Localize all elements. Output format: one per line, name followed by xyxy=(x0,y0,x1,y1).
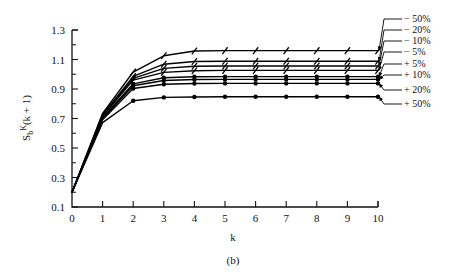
data-point-marker xyxy=(192,95,196,99)
legend-label-8: + 50% xyxy=(404,98,430,109)
x-tick-label: 0 xyxy=(69,212,75,224)
data-point-marker xyxy=(162,95,166,99)
x-tick-label: 5 xyxy=(222,212,228,224)
data-point-marker xyxy=(162,82,166,86)
data-point-marker xyxy=(345,77,349,81)
x-tick-label: 3 xyxy=(161,212,167,224)
x-axis-title: k xyxy=(230,231,236,243)
data-point-marker xyxy=(345,95,349,99)
data-point-marker xyxy=(284,81,288,85)
data-point-marker xyxy=(223,81,227,85)
data-point-marker xyxy=(253,95,257,99)
x-tick-label: 10 xyxy=(373,212,385,224)
legend-leader-line xyxy=(379,97,402,104)
data-point-marker xyxy=(315,81,319,85)
x-axis-ticks xyxy=(103,201,378,207)
axis-lines xyxy=(72,30,378,207)
y-axis-title: SbK(k + 1) xyxy=(19,95,35,141)
data-point-marker xyxy=(284,95,288,99)
series-line xyxy=(72,51,378,193)
x-tick-label: 9 xyxy=(345,212,351,224)
series-line xyxy=(72,83,378,192)
legend-leader-line xyxy=(379,41,402,66)
legend-label-3: − 10% xyxy=(404,35,430,46)
x-tick-label: 8 xyxy=(314,212,320,224)
data-point-marker xyxy=(315,95,319,99)
legend-leader-line xyxy=(379,19,402,51)
legend-label-5: + 5% xyxy=(404,58,425,69)
data-point-marker xyxy=(284,77,288,81)
figure-panel: 012345678910 0.10.30.50.70.91.11.3 − 50%… xyxy=(0,0,466,276)
y-tick-label: 0.3 xyxy=(51,172,65,184)
legend-label-1: − 50% xyxy=(404,13,430,24)
legend-leader-arrow xyxy=(379,83,383,88)
y-axis-title-text: SbK(k + 1) xyxy=(19,95,35,141)
data-point-marker xyxy=(253,77,257,81)
data-series-group xyxy=(72,51,378,193)
data-point-marker xyxy=(162,78,166,82)
x-tick-label: 1 xyxy=(100,212,106,224)
data-point-marker xyxy=(131,99,135,103)
y-tick-label: 1.1 xyxy=(51,54,65,66)
y-tick-label: 0.1 xyxy=(51,201,65,213)
x-tick-label: 2 xyxy=(130,212,136,224)
axes xyxy=(72,30,378,207)
y-axis-title-tail: (k + 1) xyxy=(20,95,33,125)
x-tick-label: 4 xyxy=(192,212,198,224)
data-point-marker xyxy=(345,81,349,85)
legend-label-4: − 5% xyxy=(404,46,425,57)
legend: − 50%− 20%− 10%− 5%+ 5%+ 10%+ 20%+ 50% xyxy=(404,13,430,109)
legend-leader-arrow xyxy=(379,97,383,102)
data-point-marker xyxy=(223,95,227,99)
data-point-marker xyxy=(192,81,196,85)
figure-caption: (b) xyxy=(227,254,240,267)
x-tick-label: 7 xyxy=(283,212,289,224)
y-tick-label: 1.3 xyxy=(51,24,65,36)
data-point-marker xyxy=(192,77,196,81)
x-axis-tick-labels: 012345678910 xyxy=(69,212,384,224)
legend-label-2: − 20% xyxy=(404,24,430,35)
data-point-marker xyxy=(131,86,135,90)
legend-label-6: + 10% xyxy=(404,69,430,80)
data-point-marker xyxy=(223,77,227,81)
series-line xyxy=(72,97,378,192)
legend-label-7: + 20% xyxy=(404,84,430,95)
data-point-marker xyxy=(253,81,257,85)
y-axis-tick-labels: 0.10.30.50.70.91.11.3 xyxy=(51,24,65,213)
data-point-marker xyxy=(315,77,319,81)
y-tick-label: 0.5 xyxy=(51,142,65,154)
legend-leader-line xyxy=(379,83,402,90)
x-tick-label: 6 xyxy=(253,212,259,224)
y-tick-label: 0.9 xyxy=(51,83,65,95)
line-chart: 012345678910 0.10.30.50.70.91.11.3 − 50%… xyxy=(0,0,466,276)
y-tick-label: 0.7 xyxy=(51,113,65,125)
legend-leader-lines xyxy=(378,19,402,104)
series-line xyxy=(72,70,378,192)
series-line xyxy=(72,77,378,193)
